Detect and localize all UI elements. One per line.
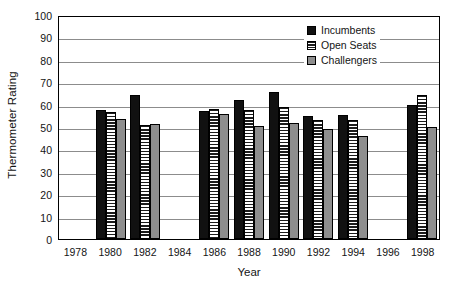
bar-incumbents-1992 (303, 116, 313, 239)
x-tick-label: 1992 (301, 243, 336, 261)
y-tick-label: 10 (40, 212, 52, 223)
y-tick-label: 100 (34, 11, 52, 22)
bar-challengers-1982 (150, 124, 160, 239)
bar-challengers-1998 (427, 127, 437, 239)
chart-legend: IncumbentsOpen SeatsChallengers (304, 22, 380, 69)
y-tick-label: 60 (40, 100, 52, 111)
striped-swatch (307, 41, 316, 50)
legend-item-challengers: Challengers (307, 54, 377, 67)
bar-challengers-1994 (358, 136, 368, 239)
bar-challengers-1980 (116, 119, 126, 239)
bar-incumbents-1994 (338, 115, 348, 239)
y-tick-label: 30 (40, 168, 52, 179)
x-tick-label: 1990 (266, 243, 301, 261)
bars-layer (59, 17, 439, 239)
bar-incumbents-1988 (234, 100, 244, 239)
bar-incumbents-1990 (269, 92, 279, 239)
bar-incumbents-1986 (199, 111, 209, 239)
bar-challengers-1986 (219, 114, 229, 239)
bar-open-seats-1992 (313, 120, 323, 239)
x-axis-tick-labels: 1978198019821984198619881990199219941996… (58, 243, 440, 261)
legend-label: Incumbents (321, 25, 375, 36)
year-group-1982 (128, 17, 163, 239)
year-group-1998 (404, 17, 439, 239)
bar-incumbents-1998 (407, 105, 417, 239)
year-group-1984 (163, 17, 198, 239)
x-tick-label: 1980 (93, 243, 128, 261)
x-tick-label: 1998 (405, 243, 440, 261)
x-axis-title: Year (58, 266, 440, 278)
x-tick-label: 1986 (197, 243, 232, 261)
bar-open-seats-1988 (244, 110, 254, 239)
year-group-1988 (232, 17, 267, 239)
legend-label: Open Seats (321, 40, 376, 51)
y-tick-label: 20 (40, 190, 52, 201)
x-tick-label: 1988 (232, 243, 267, 261)
x-tick-label: 1996 (371, 243, 406, 261)
bar-incumbents-1982 (130, 95, 140, 239)
solid-gray-swatch (307, 56, 316, 65)
x-tick-label: 1982 (127, 243, 162, 261)
bar-challengers-1988 (254, 126, 264, 239)
x-tick-label: 1994 (336, 243, 371, 261)
y-tick-label: 40 (40, 145, 52, 156)
year-group-1990 (266, 17, 301, 239)
bar-challengers-1990 (289, 123, 299, 239)
bar-open-seats-1986 (209, 109, 219, 239)
legend-label: Challengers (321, 55, 377, 66)
y-tick-label: 80 (40, 56, 52, 67)
y-tick-label: 70 (40, 78, 52, 89)
y-axis-tick-labels: 1009080706050403020100 (24, 16, 56, 240)
bar-open-seats-1982 (140, 125, 150, 239)
year-group-1980 (94, 17, 129, 239)
y-tick-label: 90 (40, 33, 52, 44)
bar-open-seats-1994 (348, 120, 358, 239)
bar-open-seats-1980 (106, 112, 116, 239)
y-axis-title-text: Thermometer Rating (6, 71, 18, 178)
year-group-1978 (59, 17, 94, 239)
bar-incumbents-1980 (96, 110, 106, 239)
x-tick-label: 1984 (162, 243, 197, 261)
bar-chart: Thermometer Rating 100908070605040302010… (0, 0, 450, 295)
bar-challengers-1992 (323, 129, 333, 239)
legend-item-open-seats: Open Seats (307, 39, 377, 52)
x-tick-label: 1978 (58, 243, 93, 261)
legend-item-incumbents: Incumbents (307, 24, 377, 37)
bar-open-seats-1990 (279, 107, 289, 239)
y-tick-label: 0 (46, 235, 52, 246)
year-group-1986 (197, 17, 232, 239)
y-tick-label: 50 (40, 123, 52, 134)
solid-black-swatch (307, 26, 316, 35)
y-axis-title: Thermometer Rating (0, 0, 24, 250)
bar-open-seats-1998 (417, 95, 427, 239)
plot-area (58, 16, 440, 240)
